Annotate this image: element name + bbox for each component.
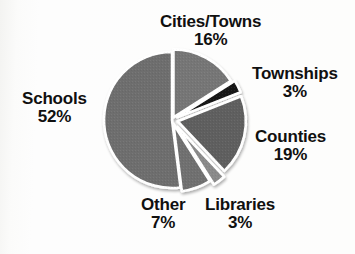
pie-label-counties-percent: 19%: [255, 146, 326, 164]
pie-label-cities-towns-name: Cities/Towns: [160, 13, 261, 31]
pie-label-other: Other 7%: [141, 196, 185, 231]
pie-label-schools-name: Schools: [22, 90, 87, 108]
pie-label-townships-percent: 3%: [252, 83, 338, 101]
pie-chart-figure: Cities/Towns 16% Townships 3% Counties 1…: [0, 0, 355, 254]
pie-label-counties-name: Counties: [255, 128, 326, 146]
pie-label-schools-percent: 52%: [22, 108, 87, 126]
pie-label-libraries-percent: 3%: [205, 214, 275, 232]
pie-label-other-name: Other: [141, 196, 185, 214]
pie-label-townships: Townships 3%: [252, 65, 338, 100]
pie-label-townships-name: Townships: [252, 65, 338, 83]
pie-label-other-percent: 7%: [141, 214, 185, 232]
pie-slice-grain: [104, 52, 181, 188]
pie-label-cities-towns-percent: 16%: [160, 31, 261, 49]
pie-label-counties: Counties 19%: [255, 128, 326, 163]
pie-label-schools: Schools 52%: [22, 90, 87, 125]
pie-label-libraries-name: Libraries: [205, 196, 275, 214]
pie-label-cities-towns: Cities/Towns 16%: [160, 13, 261, 48]
pie-label-libraries: Libraries 3%: [205, 196, 275, 231]
